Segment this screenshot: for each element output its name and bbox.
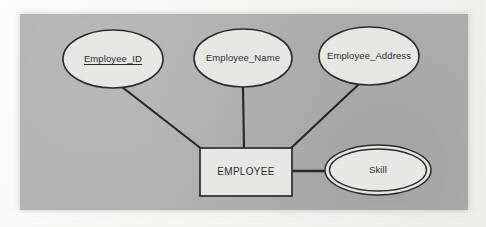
connector-employee-name (243, 87, 244, 148)
entity-rectangle-employee (200, 148, 292, 196)
attribute-double-ellipse-skill (325, 145, 431, 195)
attribute-ellipse-employee-name (194, 29, 292, 87)
connector-employee-id (122, 87, 203, 150)
er-diagram-canvas (0, 0, 486, 227)
attribute-ellipse-employee-address (319, 27, 419, 85)
skill-inner-ellipse (330, 149, 427, 191)
connector-employee-address (290, 85, 358, 149)
attribute-ellipse-employee-id (63, 30, 163, 88)
er-diagram-image: Employee_ID Employee_Name Employee_Addre… (0, 0, 486, 227)
